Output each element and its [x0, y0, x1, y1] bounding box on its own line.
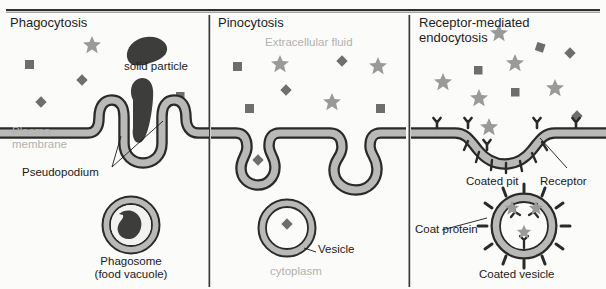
panel-title-rme: Receptor-mediated endocytosis	[419, 16, 530, 45]
panel-divider-right	[409, 15, 411, 287]
panel-divider-left	[209, 15, 211, 287]
label-cytoplasm: cytoplasm	[270, 265, 322, 278]
label-solid-particle: solid particle	[124, 60, 188, 73]
rme-membrane	[411, 118, 606, 173]
top-rule	[6, 9, 600, 11]
label-extracellular-fluid: Extracellular fluid	[265, 36, 353, 49]
label-receptor: Receptor	[540, 175, 587, 188]
label-phagosome: Phagosome (food vacuole)	[76, 255, 186, 281]
label-pseudopodium: Pseudopodium	[22, 166, 99, 179]
vesicle-shape	[259, 200, 315, 256]
coated-vesicle-shape	[478, 184, 570, 268]
phagosome-shape	[103, 197, 159, 253]
label-coated-pit: Coated pit	[466, 175, 518, 188]
panel-title-pinocytosis: Pinocytosis	[218, 16, 284, 31]
label-coat-protein: Coat protein	[415, 223, 478, 236]
panel-title-phagocytosis: Phagocytosis	[10, 16, 87, 31]
label-coated-vesicle: Coated vesicle	[479, 268, 554, 281]
pinocytosis-particles	[233, 55, 387, 113]
label-vesicle: Vesicle	[318, 243, 354, 256]
label-plasma-membrane: Plasma membrane	[12, 125, 67, 151]
diagram-canvas: Phagocytosis solid particle Plasma membr…	[0, 0, 606, 289]
receptor-leader	[540, 138, 567, 168]
pinocytosis-membrane	[211, 133, 406, 190]
